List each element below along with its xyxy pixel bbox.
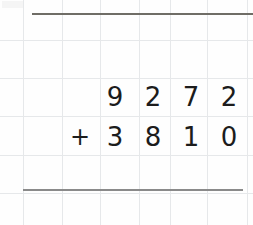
addend1-digit-tens: 7	[172, 78, 210, 116]
addend1-digit-thousands: 9	[96, 78, 134, 116]
addend1-digit-hundreds: 2	[134, 78, 172, 116]
grid-vertical-line	[62, 0, 63, 225]
grid-vertical-line	[23, 0, 24, 225]
addition-worksheet: 9 2 7 2 + 3 8 1 0	[0, 0, 253, 225]
answer-rule-line	[23, 189, 243, 191]
addition-operator: +	[61, 118, 99, 156]
grid-horizontal-line	[0, 116, 253, 117]
sum-digit-ones[interactable]	[210, 193, 248, 225]
addend1-digit-ones: 2	[210, 78, 248, 116]
addend2-digit-ones: 0	[210, 118, 248, 156]
addend2-digit-hundreds: 8	[134, 118, 172, 156]
corner-smudge-artifact	[2, 1, 24, 8]
sum-digit-thousands[interactable]	[96, 193, 134, 225]
sum-digit-hundreds[interactable]	[134, 193, 172, 225]
addend2-digit-tens: 1	[172, 118, 210, 156]
grid-horizontal-line	[0, 40, 253, 41]
top-rule-line	[32, 13, 253, 15]
addend2-digit-thousands: 3	[96, 118, 134, 156]
sum-digit-tens[interactable]	[172, 193, 210, 225]
